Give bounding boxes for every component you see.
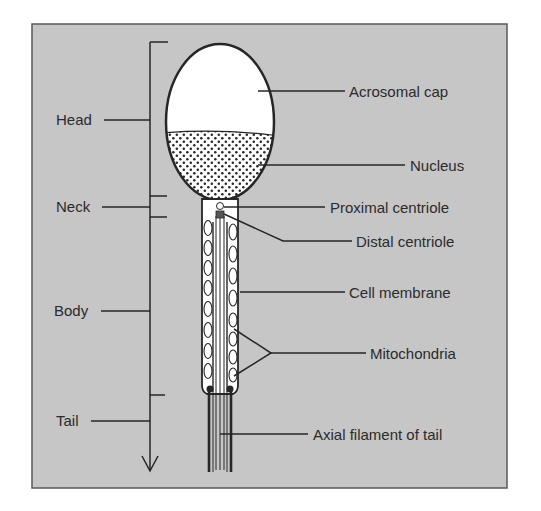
proximal-centriole-shape — [217, 203, 224, 210]
label-cell-membrane: Cell membrane — [349, 285, 451, 300]
label-axial-filament: Axial filament of tail — [313, 427, 442, 442]
label-proximal-centriole: Proximal centriole — [330, 200, 449, 215]
label-neck: Neck — [56, 199, 90, 214]
label-acrosomal-cap: Acrosomal cap — [349, 84, 448, 99]
label-body: Body — [54, 303, 88, 318]
label-distal-centriole: Distal centriole — [356, 234, 454, 249]
label-tail: Tail — [56, 413, 79, 428]
sperm-diagram: Head Neck Body Tail Acrosomal cap Nucleu… — [0, 0, 541, 511]
label-nucleus: Nucleus — [410, 158, 464, 173]
label-mitochondria: Mitochondria — [370, 346, 456, 361]
distal-centriole-shape — [216, 211, 224, 218]
mitochondria-right — [229, 224, 237, 382]
diagram-canvas — [0, 0, 541, 511]
label-head: Head — [56, 112, 92, 127]
